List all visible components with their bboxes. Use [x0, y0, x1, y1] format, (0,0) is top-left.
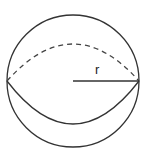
equator-back-dashed	[7, 44, 139, 81]
equator-front	[7, 81, 139, 124]
sphere-diagram: r	[0, 0, 150, 160]
radius-label: r	[95, 62, 100, 77]
